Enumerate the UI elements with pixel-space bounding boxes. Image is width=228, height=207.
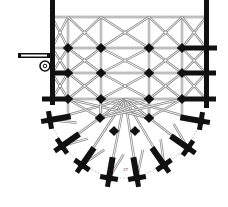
pier — [145, 117, 154, 119]
radial-buttress — [179, 108, 212, 131]
pier — [110, 130, 119, 132]
pier — [145, 47, 154, 49]
radial-buttress — [99, 156, 122, 189]
wall-spur-gap — [21, 55, 47, 57]
pier — [178, 98, 187, 100]
pier — [145, 98, 154, 100]
pier — [96, 117, 105, 119]
radial-buttress — [69, 143, 101, 178]
pier — [97, 47, 106, 49]
boss — [83, 84, 86, 87]
boss — [164, 31, 167, 34]
boss — [123, 31, 126, 34]
radial-buttress — [145, 143, 177, 178]
pier — [178, 47, 187, 49]
pier — [64, 47, 73, 49]
pier — [178, 72, 187, 74]
radial-buttress — [49, 127, 84, 159]
radial-buttress — [124, 156, 147, 189]
pier — [131, 130, 140, 132]
pier — [97, 72, 106, 74]
stair-turret-icon — [40, 61, 50, 71]
boss — [58, 59, 61, 62]
boss — [83, 31, 86, 34]
pier — [145, 72, 154, 74]
plan-annotation: 37 — [123, 167, 129, 172]
boss — [164, 84, 167, 87]
boss — [123, 59, 126, 62]
pier — [64, 98, 73, 100]
pier — [97, 98, 106, 100]
boss — [192, 59, 195, 62]
boss — [83, 59, 86, 62]
boss — [123, 84, 126, 87]
turret-outline — [40, 61, 50, 71]
boss — [58, 31, 61, 34]
pier — [64, 72, 73, 74]
boss — [192, 31, 195, 34]
right-wall — [204, 0, 209, 108]
boss — [164, 59, 167, 62]
vault-plan-drawing: 37 — [0, 0, 228, 207]
side-buttress — [182, 97, 216, 102]
boss — [58, 84, 61, 87]
side-buttress — [182, 46, 217, 51]
left-wall — [50, 0, 55, 105]
side-buttress — [182, 71, 216, 76]
boss — [192, 84, 195, 87]
